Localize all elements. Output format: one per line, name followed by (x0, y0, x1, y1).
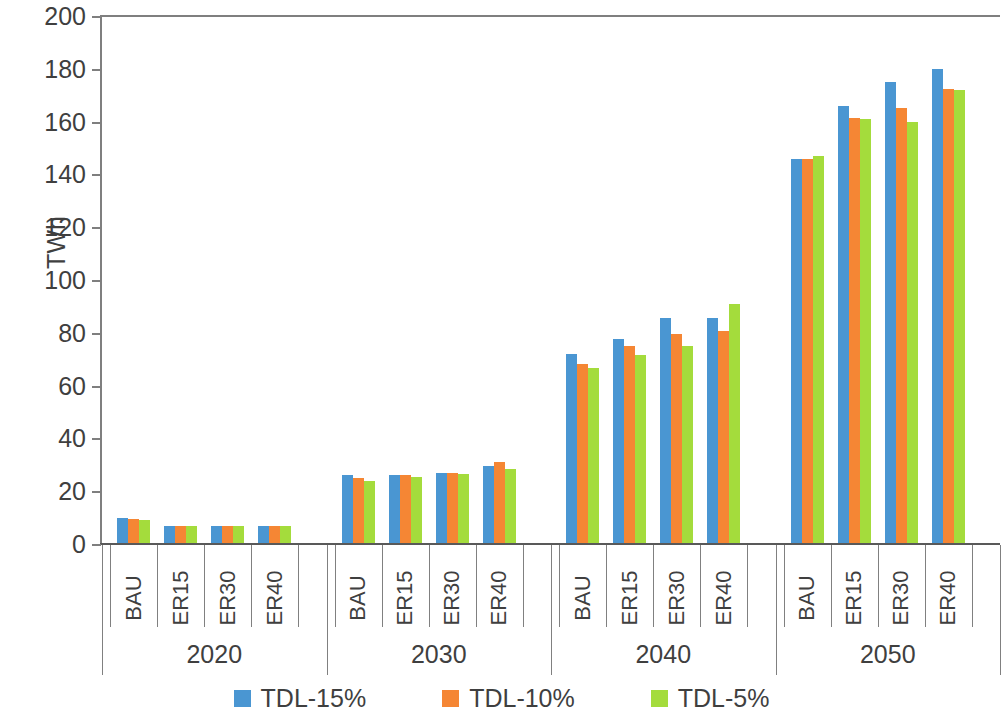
category-separator (382, 545, 383, 627)
legend-label: TDL-5% (678, 686, 770, 711)
bar-chart: TWh 200180160140120100806040200 BAUER15E… (0, 0, 1003, 720)
bar-cluster (925, 16, 972, 544)
category-separator (429, 545, 430, 627)
category-label: BAU (123, 557, 145, 639)
bar (932, 69, 943, 544)
y-axis-tick-label: 0 (18, 532, 86, 557)
plot-area (102, 16, 1000, 544)
legend-swatch-icon (234, 690, 251, 707)
y-axis-tick-mark (92, 333, 101, 335)
bar (613, 339, 624, 544)
bar (849, 118, 860, 544)
bar (791, 159, 802, 544)
group-label: 2050 (776, 637, 1001, 671)
bar (577, 364, 588, 544)
group-label: 2040 (551, 637, 776, 671)
y-axis-tick-label: 100 (18, 268, 86, 293)
category-separator (831, 545, 832, 627)
bar (943, 89, 954, 544)
bar (342, 475, 353, 544)
bar-cluster (382, 16, 429, 544)
category-separator (476, 545, 477, 627)
bar-cluster (429, 16, 476, 544)
legend-label: TDL-10% (469, 686, 575, 711)
bar-cluster (476, 16, 523, 544)
category-label: ER40 (488, 557, 510, 639)
bar (860, 119, 871, 544)
category-label: ER15 (843, 557, 865, 639)
y-axis-tick-mark (92, 438, 101, 440)
category-separator (878, 545, 879, 627)
category-label: ER30 (441, 557, 463, 639)
legend-item[interactable]: TDL-10% (442, 686, 575, 711)
bar-cluster (335, 16, 382, 544)
bar (400, 475, 411, 544)
y-axis-tick-label: 160 (18, 109, 86, 134)
y-axis-tick-mark (92, 16, 101, 18)
y-axis-tick-label: 200 (18, 4, 86, 29)
category-separator (925, 545, 926, 627)
group-label: 2020 (102, 637, 327, 671)
y-axis-tick-mark (92, 227, 101, 229)
bar (813, 156, 824, 544)
category-label: ER15 (170, 557, 192, 639)
y-axis-tick-mark (92, 386, 101, 388)
bar-cluster (878, 16, 925, 544)
y-axis-tick-mark (92, 491, 101, 493)
bar (436, 473, 447, 544)
bar-cluster (606, 16, 653, 544)
legend-label: TDL-15% (261, 686, 367, 711)
y-axis-tick-label: 120 (18, 215, 86, 240)
category-separator (784, 545, 785, 627)
category-separator (747, 545, 748, 627)
legend-item[interactable]: TDL-5% (651, 686, 770, 711)
y-axis-tick-label: 40 (18, 426, 86, 451)
bar (718, 331, 729, 544)
category-separator (559, 545, 560, 627)
bar-cluster (700, 16, 747, 544)
bar (128, 519, 139, 544)
y-axis-tick-mark (92, 69, 101, 71)
bar (447, 473, 458, 544)
bar-cluster (251, 16, 298, 544)
bar (411, 477, 422, 544)
category-label: ER40 (264, 557, 286, 639)
bar-cluster (653, 16, 700, 544)
category-separator (972, 545, 973, 627)
bar (671, 334, 682, 544)
bar (389, 475, 400, 544)
group-label: 2030 (327, 637, 552, 671)
category-label: ER30 (890, 557, 912, 639)
category-separator (157, 545, 158, 627)
legend-swatch-icon (442, 690, 459, 707)
bar (566, 354, 577, 544)
group-separator (1000, 545, 1001, 675)
bar (729, 304, 740, 544)
bar (364, 481, 375, 544)
bar (139, 520, 150, 544)
bar-cluster (831, 16, 878, 544)
bar (175, 526, 186, 544)
bar (353, 478, 364, 544)
category-axis: BAUER15ER30ER402020BAUER15ER30ER402030BA… (102, 545, 1000, 675)
bar-cluster (559, 16, 606, 544)
legend-swatch-icon (651, 690, 668, 707)
chart-legend: TDL-15%TDL-10%TDL-5% (0, 686, 1003, 711)
category-label: ER30 (217, 557, 239, 639)
bar-cluster (784, 16, 831, 544)
category-label: BAU (572, 557, 594, 639)
bar (954, 90, 965, 544)
bar (222, 526, 233, 544)
legend-item[interactable]: TDL-15% (234, 686, 367, 711)
bar (483, 466, 494, 544)
y-axis-tick-mark (92, 544, 101, 546)
category-separator (653, 545, 654, 627)
category-separator (335, 545, 336, 627)
category-separator (251, 545, 252, 627)
y-axis-tick-mark (92, 122, 101, 124)
bar (186, 526, 197, 544)
y-axis-tick-mark (92, 174, 101, 176)
y-axis-tick-label: 180 (18, 56, 86, 81)
bar-cluster (204, 16, 251, 544)
category-separator (110, 545, 111, 627)
